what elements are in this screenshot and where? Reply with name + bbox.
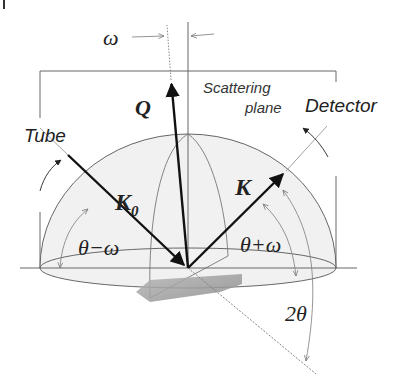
corner-mark: [3, 0, 5, 9]
q-label: Q: [135, 97, 151, 119]
omega-label: ω: [103, 27, 119, 49]
two-theta-label: 2θ: [285, 303, 307, 325]
k0-label: K0: [115, 190, 139, 219]
k-label: K: [235, 175, 251, 199]
tube-label: Tube: [24, 126, 66, 145]
detector-label: Detector: [305, 96, 377, 115]
k0-label-subscript: 0: [131, 203, 139, 219]
k0-label-main: K: [115, 189, 131, 215]
tube-rotation-arrow: [42, 156, 62, 172]
scattering-plane-label-line2: plane: [245, 100, 282, 115]
theta-plus-omega-label: θ+ω: [240, 234, 281, 256]
scattering-plane-label-line1: Scattering: [203, 80, 271, 95]
theta-minus-omega-label: θ−ω: [78, 237, 119, 259]
diffraction-diagram: [0, 0, 409, 389]
